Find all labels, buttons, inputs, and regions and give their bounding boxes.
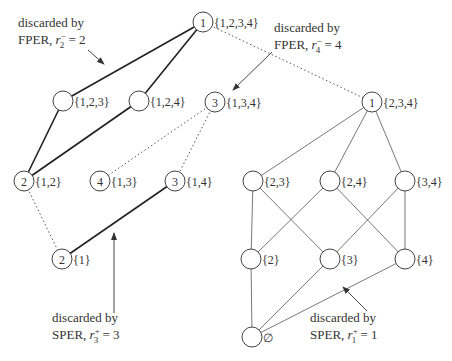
node-n123: {1,2,3} xyxy=(53,91,110,111)
annotation-sper1: discarded bySPER, r+1 = 1 xyxy=(310,310,378,345)
annotation-sper3: discarded bySPER, r+3 = 3 xyxy=(52,310,120,345)
node-circle xyxy=(241,249,261,269)
arrow-fper4 xyxy=(233,52,272,90)
annotation-line2: SPER, r+1 = 1 xyxy=(310,326,378,345)
edge-thin xyxy=(253,102,372,181)
node-set-label: {3,4} xyxy=(416,175,443,189)
node-set-label: {1,3,4} xyxy=(226,96,262,110)
node-set-label: {4} xyxy=(416,253,434,267)
node-set-label: {1,2,3,4} xyxy=(214,16,259,30)
edge-thick xyxy=(62,181,175,259)
arrow-sper1 xyxy=(343,287,367,311)
annotation-fper2: discarded byFPER, r−2 = 2 xyxy=(18,15,86,50)
node-n0: ∅ xyxy=(242,327,273,347)
edge-thin xyxy=(252,259,405,337)
node-n23: {2,3} xyxy=(243,171,291,191)
node-n24: {2,4} xyxy=(320,171,368,191)
nodes-layer: 1{1,2,3,4}{1,2,3}{1,2,4}3{1,3,4}1{2,3,4}… xyxy=(14,12,443,347)
node-set-label: {2,3} xyxy=(264,175,291,189)
annotation-line2: SPER, r+3 = 3 xyxy=(52,326,120,345)
node-n234: 1{2,3,4} xyxy=(362,92,419,112)
node-n12: 2{1,2} xyxy=(14,171,62,191)
node-set-label: {1,4} xyxy=(186,175,213,189)
edge-thin xyxy=(251,181,253,259)
edge-thin xyxy=(330,102,372,181)
node-circle xyxy=(320,249,340,269)
node-rank: 2 xyxy=(59,253,65,267)
node-set-label: {1,2} xyxy=(35,175,62,189)
node-circle xyxy=(242,327,262,347)
edge-dotted xyxy=(100,102,215,181)
edge-thick xyxy=(24,101,139,181)
annotation-line2: FPER, r−2 = 2 xyxy=(18,31,86,50)
node-circle xyxy=(395,171,415,191)
edge-dotted xyxy=(175,102,215,181)
annotation-line1: discarded by xyxy=(274,20,341,35)
node-circle xyxy=(395,249,415,269)
node-n13: 4{1,3} xyxy=(90,171,138,191)
node-set-label: {1,2,4} xyxy=(150,95,186,109)
edge-thin xyxy=(252,259,330,337)
node-rank: 1 xyxy=(369,96,375,110)
node-circle xyxy=(243,171,263,191)
node-set-label: {2,3,4} xyxy=(383,96,419,110)
node-set-label: {1,2,3} xyxy=(74,95,110,109)
node-set-label: {3} xyxy=(341,253,359,267)
node-n134: 3{1,3,4} xyxy=(205,92,262,112)
annotation-fper4: discarded byFPER, r−4 = 4 xyxy=(274,20,342,55)
node-n1234: 1{1,2,3,4} xyxy=(193,12,259,32)
annotation-line1: discarded by xyxy=(52,310,119,325)
node-rank: 4 xyxy=(97,175,103,189)
node-circle xyxy=(53,91,73,111)
node-set-label: {1,3} xyxy=(111,175,138,189)
arrow-fper2 xyxy=(88,50,104,64)
node-rank: 3 xyxy=(172,175,178,189)
node-set-label: ∅ xyxy=(263,331,273,345)
node-rank: 1 xyxy=(200,16,206,30)
node-circle xyxy=(320,171,340,191)
node-n14: 3{1,4} xyxy=(165,171,213,191)
node-set-label: {2,4} xyxy=(341,175,368,189)
node-circle xyxy=(129,91,149,111)
edge-thin xyxy=(372,102,405,181)
node-n4: {4} xyxy=(395,249,434,269)
hasse-diagram: 1{1,2,3,4}{1,2,3}{1,2,4}3{1,3,4}1{2,3,4}… xyxy=(0,0,452,361)
node-n124: {1,2,4} xyxy=(129,91,186,111)
node-set-label: {2} xyxy=(262,253,280,267)
node-n34: {3,4} xyxy=(395,171,443,191)
edge-thick xyxy=(24,101,63,181)
annotation-line1: discarded by xyxy=(310,310,377,325)
edge-dotted xyxy=(24,181,62,259)
edge-thin xyxy=(251,259,252,337)
node-set-label: {1} xyxy=(73,253,91,267)
node-n2: {2} xyxy=(241,249,280,269)
annotation-line1: discarded by xyxy=(18,15,85,30)
node-rank: 3 xyxy=(212,96,218,110)
annotation-line2: FPER, r−4 = 4 xyxy=(274,36,342,55)
node-n3: {3} xyxy=(320,249,359,269)
edge-thick xyxy=(139,22,203,101)
node-rank: 2 xyxy=(21,175,27,189)
